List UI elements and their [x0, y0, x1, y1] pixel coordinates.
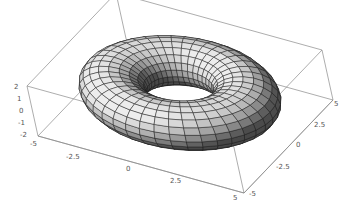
box-edge	[116, 0, 127, 43]
x-tick: 0	[126, 165, 130, 173]
torus-mesh-patch	[201, 134, 218, 142]
torus-mesh-patch	[169, 119, 184, 128]
z-tick: 0	[19, 107, 23, 115]
torus-mesh-patch	[169, 127, 185, 136]
torus-mesh-patch	[172, 42, 183, 49]
torus-mesh-patch	[185, 135, 202, 142]
torus-surface	[79, 36, 281, 151]
x-tick: 5	[233, 194, 237, 202]
x-tick: -5	[30, 140, 37, 148]
torus-mesh-patch	[159, 38, 172, 42]
torus-mesh-patch	[181, 55, 188, 64]
torus-mesh-patch	[99, 66, 109, 72]
torus-mesh-patch	[174, 55, 182, 63]
box-edge	[233, 143, 244, 193]
torus-3d-plot: 2 1 0 -1 -2 -5 -2.5 0 2.5 5 -5 -2.5 0 2.…	[0, 0, 357, 210]
torus-mesh-patch	[169, 112, 183, 120]
y-tick: 5	[334, 100, 338, 108]
y-tick: 0	[296, 141, 300, 149]
z-tick: 1	[17, 95, 21, 103]
z-tick: 2	[14, 83, 18, 91]
z-tick: -1	[18, 119, 25, 127]
x-tick: -2.5	[66, 153, 80, 161]
torus-mesh-patch	[181, 63, 187, 71]
box-edge	[27, 86, 38, 136]
y-tick: -5	[249, 190, 256, 198]
y-tick: -2.5	[276, 163, 290, 171]
torus-mesh-patch	[186, 142, 203, 147]
x-tick: 2.5	[170, 177, 181, 185]
box-edge	[322, 50, 333, 100]
z-axis-ticks: 2 1 0 -1 -2	[14, 83, 27, 139]
torus-mesh-patch	[188, 147, 204, 150]
torus-mesh-patch	[198, 127, 215, 136]
z-tick: -2	[20, 131, 27, 139]
torus-mesh-patch	[99, 61, 111, 67]
torus-mesh-patch	[158, 36, 172, 38]
torus-mesh-patch	[169, 106, 181, 113]
torus-mesh-patch	[184, 128, 201, 136]
y-tick: 2.5	[314, 121, 325, 129]
torus-mesh-patch	[233, 77, 243, 82]
torus-mesh-patch	[173, 48, 182, 56]
